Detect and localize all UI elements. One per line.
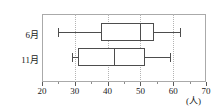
tick-minor-45 [124, 82, 125, 84]
median-november [114, 48, 115, 66]
box-november [78, 48, 145, 66]
whisker-cap-max-november [170, 53, 171, 62]
tick-label-30: 30 [62, 86, 88, 96]
tick-label-70: 70 [193, 86, 219, 96]
x-axis-unit-label: (人) [186, 96, 201, 106]
whisker-right-november [145, 57, 170, 58]
whisker-right-june [154, 32, 180, 33]
tick-minor-25 [58, 82, 59, 84]
tick-minor-55 [157, 82, 158, 84]
whisker-cap-min-june [58, 28, 59, 37]
whisker-left-june [58, 32, 101, 33]
box-june [101, 23, 153, 41]
tick-label-40: 40 [95, 86, 121, 96]
whisker-cap-max-june [180, 28, 181, 37]
tick-label-50: 50 [127, 86, 153, 96]
tick-minor-35 [91, 82, 92, 84]
boxplot-figure: 6月 11月 203040506070 (人) [0, 0, 224, 110]
tick-label-60: 60 [160, 86, 186, 96]
whisker-cap-min-november [72, 53, 73, 62]
median-june [140, 23, 141, 41]
tick-label-20: 20 [29, 86, 55, 96]
tick-minor-65 [190, 82, 191, 84]
